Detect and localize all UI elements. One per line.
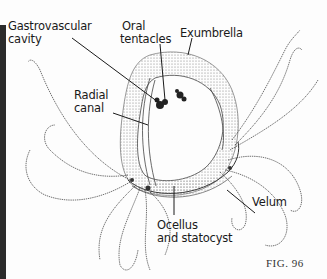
- label-text: Exumbrella: [180, 27, 243, 40]
- figure-caption: FIG. 96: [266, 257, 304, 269]
- label-exumbrella: Exumbrella: [180, 27, 243, 40]
- diagram-page: Gastrovascular cavity Oral tentacles Exu…: [0, 0, 327, 279]
- label-ocellus-statocyst: Ocellus and statocyst: [157, 219, 232, 245]
- label-text: Velum: [252, 196, 287, 209]
- label-velum: Velum: [252, 196, 287, 209]
- leader-velum: [227, 190, 255, 213]
- label-text: tentacles: [120, 33, 171, 46]
- label-text: cavity: [8, 33, 92, 46]
- label-gastrovascular-cavity: Gastrovascular cavity: [8, 20, 92, 46]
- label-text: and statocyst: [157, 232, 232, 245]
- label-oral-tentacles: Oral tentacles: [120, 20, 171, 46]
- leader-exumbrella: [188, 38, 192, 55]
- label-radial-canal: Radial canal: [74, 89, 108, 115]
- label-text: canal: [74, 102, 108, 115]
- bell-exumbrella: [120, 52, 238, 195]
